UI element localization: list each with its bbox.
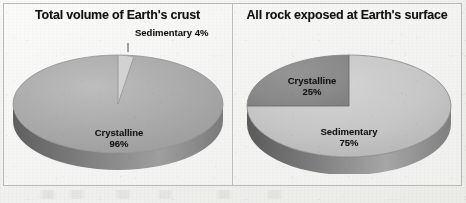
callout-pct: 4% bbox=[195, 27, 209, 38]
chart-panel-total-volume: Total volume of Earth's crust bbox=[3, 3, 232, 186]
slice-label-name: Sedimentary bbox=[320, 126, 377, 137]
page-bleed-through bbox=[14, 190, 434, 199]
callout-sedimentary: Sedimentary 4% bbox=[135, 27, 208, 38]
pie-svg-total-volume bbox=[11, 43, 225, 171]
pie-svg-exposed-surface bbox=[244, 40, 454, 174]
pie-chart-exposed-surface bbox=[244, 40, 454, 174]
callout-label: Sedimentary bbox=[135, 27, 192, 38]
callout-leader-line bbox=[128, 43, 153, 52]
slice-label-crystalline: Crystalline 25% bbox=[267, 75, 357, 97]
chart-title-exposed-surface: All rock exposed at Earth's surface bbox=[232, 8, 462, 22]
slice-label-sedimentary: Sedimentary 75% bbox=[294, 126, 404, 148]
slice-label-pct: 96% bbox=[59, 138, 179, 149]
pie-chart-total-volume bbox=[11, 43, 225, 171]
slice-label-name: Crystalline bbox=[95, 127, 144, 138]
slice-label-crystalline: Crystalline 96% bbox=[59, 127, 179, 149]
chart-title-total-volume: Total volume of Earth's crust bbox=[3, 8, 232, 22]
slice-label-pct: 25% bbox=[267, 86, 357, 97]
slice-label-pct: 75% bbox=[294, 137, 404, 148]
chart-panel-exposed-surface: All rock exposed at Earth's surface bbox=[232, 3, 462, 186]
slice-label-name: Crystalline bbox=[288, 75, 337, 86]
